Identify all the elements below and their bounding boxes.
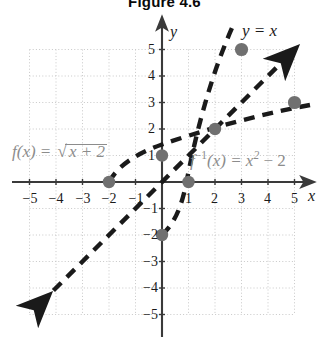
x-tick-label: −5 [20, 192, 40, 206]
sqrt-symbol-icon: √x + 2 [56, 143, 105, 160]
y-tick-label: −3 [136, 255, 158, 269]
x-tick-label: 4 [261, 192, 274, 206]
y-tick-label: 4 [140, 69, 155, 83]
y-tick-label: −2 [136, 228, 158, 242]
data-point [235, 43, 248, 56]
y-tick-label: 2 [140, 122, 155, 136]
y-tick-label: 5 [140, 43, 155, 57]
function-label-f: f(x) = √x + 2 [12, 143, 105, 160]
x-tick-label: −4 [46, 192, 66, 206]
identity-line-y-equals-x [40, 57, 287, 304]
y-tick-label: 1 [140, 149, 155, 163]
curve-f-sqrt [109, 105, 310, 182]
y-tick-label: −1 [136, 202, 158, 216]
x-tick-label: 5 [288, 192, 301, 206]
x-tick-label: −3 [73, 192, 93, 206]
data-point [103, 176, 115, 188]
x-tick-label: 3 [235, 192, 248, 206]
y-tick-label: 3 [140, 96, 155, 110]
f-inverse-tail: − 2 [259, 151, 286, 170]
data-point [156, 149, 168, 161]
f-inverse-mid: (x) = x [207, 151, 253, 170]
y-tick-label: −5 [136, 308, 158, 322]
y-tick-label: −4 [136, 281, 158, 295]
function-label-f-prefix: f(x) = [12, 142, 56, 161]
data-point [288, 96, 301, 109]
x-tick-label: 1 [182, 192, 195, 206]
function-label-f-inverse: f−1(x) = x2 − 2 [190, 150, 286, 169]
x-tick-label: −2 [99, 192, 119, 206]
y-axis-name: y [170, 24, 177, 40]
data-point [209, 123, 221, 135]
x-tick-label: 2 [208, 192, 221, 206]
identity-line-label: y = x [242, 22, 277, 39]
data-point [182, 176, 194, 188]
x-axis-name: x [308, 188, 315, 204]
figure-container: Figure 4.6 [0, 0, 329, 337]
f-inverse-exponent: −1 [195, 149, 207, 162]
